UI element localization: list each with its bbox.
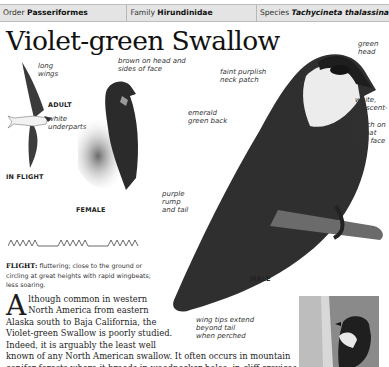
species-value: Tachycineta thalassina bbox=[292, 8, 389, 17]
flight-label: FLIGHT: bbox=[6, 262, 37, 270]
family-value: Hirundinidae bbox=[157, 8, 212, 17]
caption-male: MALE bbox=[250, 275, 271, 283]
swallow-photo bbox=[299, 296, 379, 367]
taxonomy-family: Family Hirundinidae bbox=[127, 5, 256, 21]
taxonomy-bar: Order Passeriformes Family Hirundinidae … bbox=[0, 4, 389, 22]
caption-in-flight: IN FLIGHT bbox=[6, 173, 44, 181]
flight-description: FLIGHT: fluttering; close to the ground … bbox=[6, 261, 156, 289]
label-white-crescent-patch: white, crescent-like patch on throat and… bbox=[355, 96, 389, 145]
label-green-head: green head bbox=[358, 40, 386, 56]
order-value: Passeriformes bbox=[27, 8, 88, 17]
label-long-wings: long wings bbox=[38, 62, 64, 78]
label-purple-rump-tail: purple rump and tail bbox=[162, 190, 190, 215]
female-bird-illustration bbox=[78, 78, 158, 198]
species-description: A lthough common in western North Americ… bbox=[6, 294, 286, 367]
caption-adult: ADULT bbox=[48, 101, 72, 109]
caption-female: FEMALE bbox=[76, 206, 106, 214]
taxonomy-species: Species Tachycineta thalassina bbox=[257, 5, 389, 21]
taxonomy-order: Order Passeriformes bbox=[0, 5, 127, 21]
drop-cap: A bbox=[6, 295, 26, 317]
flight-pattern-icon bbox=[8, 238, 148, 248]
label-faint-purplish-neck: faint purplish neck patch bbox=[220, 68, 270, 84]
label-emerald-green-back: emerald green back bbox=[188, 109, 228, 125]
